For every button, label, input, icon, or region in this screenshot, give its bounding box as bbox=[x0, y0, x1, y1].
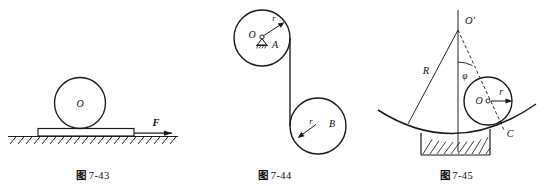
caption-7-44-cjk: 图 bbox=[258, 170, 268, 181]
angle-arc bbox=[458, 62, 473, 66]
figure-7-43-drawing: O bbox=[0, 0, 186, 186]
cylinder-center-label: O bbox=[475, 95, 482, 106]
caption-7-45-cjk: 图 bbox=[440, 170, 450, 181]
fixed-pivot-support bbox=[256, 35, 268, 49]
caption-7-45-number: 7-45 bbox=[452, 170, 473, 181]
figure-7-43: O bbox=[0, 0, 186, 186]
figure-7-44-drawing: O A r r B bbox=[186, 0, 364, 186]
caption-7-44: 图7-44 bbox=[186, 167, 364, 182]
caption-7-44-number: 7-44 bbox=[271, 170, 292, 181]
plank-rectangle bbox=[38, 129, 134, 137]
figure-7-44: O A r r B 图7-44 bbox=[186, 0, 364, 186]
radius-arrow-a bbox=[263, 22, 285, 36]
radius-arrow-b bbox=[298, 125, 316, 138]
pulley-a-radius-label: r bbox=[272, 13, 276, 23]
ground-hatching bbox=[10, 137, 176, 144]
pulley-a-label: A bbox=[271, 39, 279, 50]
cylinder-radius-label: r bbox=[499, 87, 503, 97]
center-of-curvature-label: O' bbox=[465, 15, 476, 26]
angle-label: φ bbox=[462, 71, 467, 81]
caption-7-43: 图7-43 bbox=[0, 167, 186, 182]
pulley-a-center-label: O bbox=[248, 29, 255, 40]
force-arrow bbox=[134, 131, 172, 136]
figure-7-45: O' R φ bbox=[364, 0, 549, 186]
caption-7-45: 图7-45 bbox=[364, 167, 549, 182]
pulley-b-label: B bbox=[329, 118, 335, 129]
figure-7-45-drawing: O' R φ bbox=[364, 0, 549, 186]
figure-sheet: O bbox=[0, 0, 549, 186]
pulley-b-radius-label: r bbox=[309, 116, 313, 126]
caption-7-43-cjk: 图 bbox=[76, 170, 86, 181]
cylinder-center-label: O bbox=[76, 98, 83, 109]
circle-pulley-b bbox=[290, 98, 346, 154]
curvature-radius-label: R bbox=[422, 65, 430, 76]
radius-line-R bbox=[408, 30, 458, 124]
force-label: F bbox=[151, 117, 159, 128]
radius-arrow-r bbox=[491, 99, 513, 104]
caption-7-43-number: 7-43 bbox=[89, 170, 110, 181]
contact-point-label: C bbox=[507, 128, 514, 139]
cylinder-center-dot bbox=[486, 99, 490, 103]
